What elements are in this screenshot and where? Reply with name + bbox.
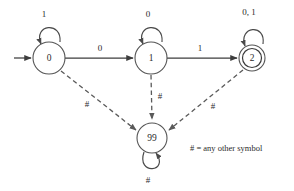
transition-label-0-to-1: 0	[98, 43, 103, 53]
state-label-2: 2	[250, 53, 255, 63]
self-loop-label-state-1: 0	[146, 9, 151, 19]
state-label-1: 1	[149, 53, 154, 63]
fsm-diagram-canvas: 0 1 # # # 1 0 0, 1 # 0 1 2	[0, 0, 294, 191]
state-label-0: 0	[47, 53, 52, 63]
transition-2-to-99	[169, 70, 243, 130]
transition-0-to-99	[61, 71, 136, 130]
transition-label-0-to-99: #	[85, 99, 90, 109]
transition-label-1-to-2: 1	[198, 43, 203, 53]
fsm-diagram-svg: 0 1 # # # 1 0 0, 1 # 0 1 2	[0, 0, 294, 191]
self-loop-label-state-0: 1	[42, 9, 47, 19]
transition-label-1-to-99: #	[158, 91, 163, 101]
self-loop-label-state-99: #	[146, 175, 151, 185]
self-loop-state-2	[244, 30, 263, 46]
transition-label-2-to-99: #	[211, 101, 216, 111]
legend-text: # = any other symbol	[190, 143, 263, 153]
self-loop-label-state-2: 0, 1	[242, 7, 256, 17]
self-loop-state-99	[143, 152, 160, 169]
transition-1-to-99	[151, 75, 152, 119]
state-label-99: 99	[147, 133, 157, 143]
